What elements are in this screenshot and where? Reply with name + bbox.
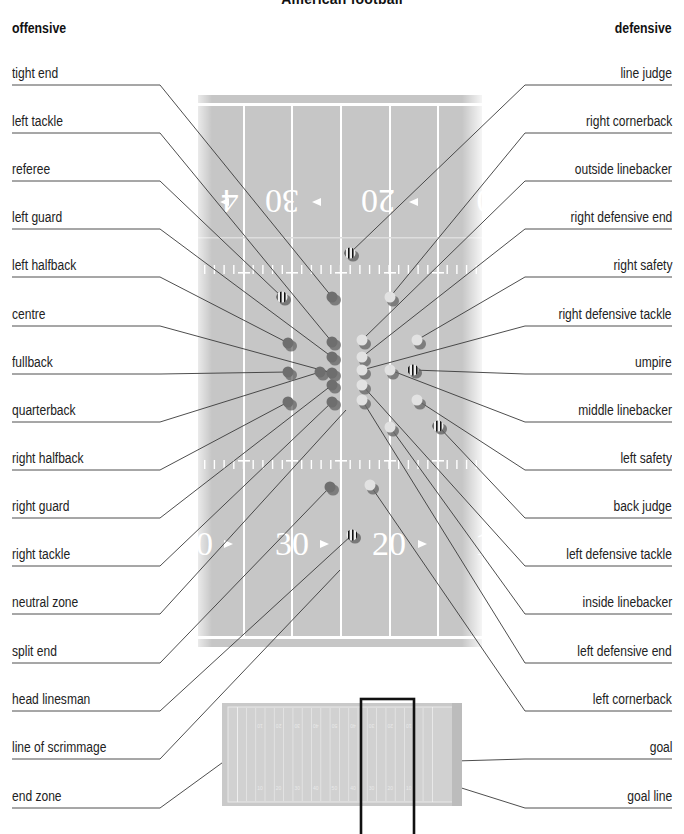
defensive-label-right-safety: right safety [613,257,672,273]
offensive-label-neutral-zone: neutral zone [12,594,78,610]
svg-text:30: 30 [294,723,300,729]
yard-number-top-2: 30 [265,183,299,220]
offensive-label-quarterback: quarterback [12,402,76,418]
svg-text:10: 10 [257,785,263,791]
defensive-label-right-defensive-tackle: right defensive tackle [559,306,672,322]
svg-text:40: 40 [313,723,319,729]
svg-text:10: 10 [257,723,263,729]
defensive-label-left-defensive-end: left defensive end [578,643,672,659]
defensive-label-goal-line: goal line [627,788,672,804]
defensive-label-left-safety: left safety [620,450,672,466]
defensive-label-umpire: umpire [635,354,672,370]
defensive-label-middle-linebacker: middle linebacker [578,402,672,418]
offensive-label-head-linesman: head linesman [12,691,90,707]
offensive-label-left-halfback: left halfback [12,257,76,273]
svg-text:50: 50 [332,785,338,791]
defensive-label-left-cornerback: left cornerback [593,691,672,707]
defensive-label-right-cornerback: right cornerback [586,113,672,129]
offensive-label-right-halfback: right halfback [12,450,84,466]
offensive-label-fullback: fullback [12,354,53,370]
svg-text:30: 30 [294,785,300,791]
svg-text:40: 40 [350,723,356,729]
offensive-label-line-of-scrimmage: line of scrimmage [12,739,106,755]
offensive-label-left-tackle: left tackle [12,113,63,129]
svg-text:50: 50 [331,723,337,729]
offensive-label-right-guard: right guard [12,498,70,514]
svg-text:20: 20 [276,723,282,729]
svg-text:30: 30 [369,785,375,791]
offensive-label-end-zone: end zone [12,788,62,804]
offensive-label-split-end: split end [12,643,57,659]
defensive-label-outside-linebacker: outside linebacker [575,161,672,177]
yard-number-bottom-2: 30 [275,525,309,562]
offensive-label-right-tackle: right tackle [12,546,70,562]
offensive-label-left-guard: left guard [12,209,62,225]
defensive-label-right-defensive-end: right defensive end [570,209,672,225]
svg-text:40: 40 [350,785,356,791]
defensive-label-back-judge: back judge [614,498,672,514]
svg-text:20: 20 [276,785,282,791]
svg-text:20: 20 [387,785,393,791]
svg-text:40: 40 [313,785,319,791]
defensive-label-left-defensive-tackle: left defensive tackle [566,546,672,562]
offensive-label-tight-end: tight end [12,65,58,81]
svg-text:10: 10 [406,785,412,791]
mini-field: 101020203030404050504040303020201010 [222,699,462,834]
defensive-label-inside-linebacker: inside linebacker [582,594,672,610]
defensive-label-line-judge: line judge [620,65,672,81]
football-field: 4 30 20 0 0 30 20 1 [190,88,494,653]
svg-text:20: 20 [387,723,393,729]
offensive-label-referee: referee [12,161,50,177]
offensive-label-centre: centre [12,306,45,322]
svg-text:10: 10 [406,723,412,729]
defensive-label-goal: goal [649,739,672,755]
svg-text:30: 30 [369,723,375,729]
